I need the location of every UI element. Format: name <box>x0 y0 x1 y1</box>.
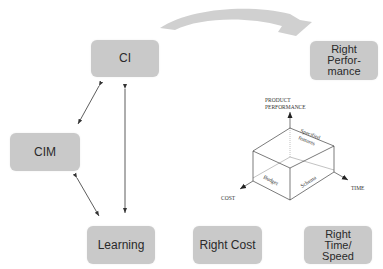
node-learning: Learning <box>87 226 155 264</box>
node-cim: CIM <box>10 133 80 171</box>
x-axis-label: TIME <box>351 185 365 191</box>
node-right-cost-label: Right Cost <box>199 240 255 251</box>
curved-arrow-icon <box>160 9 312 36</box>
y-axis-label-2: PERFORMANCE <box>265 104 306 110</box>
node-learning-label: Learning <box>98 240 145 251</box>
y-axis-label-1: PRODUCT <box>265 97 291 103</box>
node-right-performance-label: Right Perfor- mance <box>327 44 361 77</box>
left-face-label: Budget <box>263 174 280 187</box>
node-right-time-speed-label: Right Time/ Speed <box>322 229 354 262</box>
edge-cim-learning <box>77 178 99 216</box>
node-right-cost: Right Cost <box>193 226 262 264</box>
cube-labels: PRODUCT PERFORMANCE TIME COST Specified … <box>221 97 365 201</box>
cube-diagram <box>240 112 348 200</box>
node-ci-label: CI <box>119 53 131 64</box>
right-face-label: Schema <box>299 174 317 189</box>
node-right-performance: Right Perfor- mance <box>310 41 378 80</box>
node-right-time-speed: Right Time/ Speed <box>304 226 372 264</box>
edge-ci-cim <box>78 86 99 124</box>
z-axis-label: COST <box>221 195 236 201</box>
node-cim-label: CIM <box>34 147 56 158</box>
node-ci: CI <box>91 40 159 77</box>
